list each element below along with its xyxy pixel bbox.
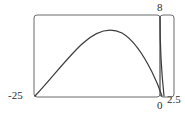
x-axis-max-label: 2.5 (167, 94, 181, 105)
main-panel-frame (34, 15, 160, 97)
right-panel-frame (160, 15, 174, 97)
y-axis-max-label: 8 (157, 2, 163, 13)
data-curve (35, 30, 162, 96)
data-curve-tail (160, 17, 164, 96)
x-axis-min-label: -25 (8, 90, 23, 101)
x-axis-origin-label: 0 (157, 100, 163, 111)
plot-figure: 8 -25 0 2.5 (0, 0, 185, 116)
